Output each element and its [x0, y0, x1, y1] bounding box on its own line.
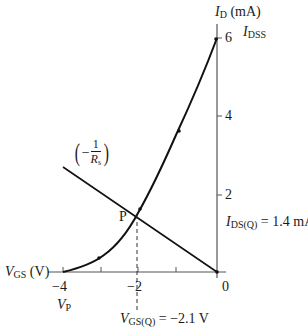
y-ticks: [217, 38, 222, 195]
x-axis-var: V: [5, 264, 14, 279]
y-tick-6: 6: [225, 31, 232, 45]
y-axis-unit: (mA): [227, 4, 261, 19]
idsq-value: = 1.4 mA: [257, 214, 308, 229]
vp-sub: P: [66, 302, 72, 313]
paren-open: (: [75, 140, 80, 166]
x-tick-m2: −2: [127, 280, 142, 294]
vgsq-label: VGS(Q) = −2.1 V: [120, 312, 209, 327]
x-axis-label: VGS (V): [5, 265, 49, 280]
slope-label: (−1Rs): [73, 138, 111, 167]
y-axis-label: ID (mA): [215, 5, 261, 20]
vp-label: VP: [57, 298, 71, 313]
slope-den-sub: s: [98, 158, 101, 167]
slope-minus: −: [82, 145, 90, 160]
y-axis-sub: D: [220, 9, 227, 20]
bias-line: [63, 167, 217, 272]
x-tick-0: 0: [222, 280, 229, 294]
idss-label: IDSS: [243, 25, 266, 40]
x-axis-sub: GS: [14, 269, 27, 280]
slope-den-var: R: [91, 152, 98, 166]
y-tick-2: 2: [225, 188, 232, 202]
slope-num: 1: [91, 138, 101, 152]
slope-fraction: 1Rs: [91, 138, 101, 167]
idss-sub: DSS: [248, 29, 266, 40]
vgsq-value: = −2.1 V: [155, 311, 209, 326]
origin-point: [215, 270, 219, 274]
vgsq-sub: GS(Q): [129, 316, 156, 327]
curve-markers: [97, 37, 218, 260]
idsq-label: IDS(Q) = 1.4 mA: [226, 215, 308, 230]
x-tick-m4: −4: [52, 280, 67, 294]
paren-close: ): [104, 140, 109, 166]
q-point-label: P: [119, 210, 127, 224]
slope-den: Rs: [91, 152, 101, 167]
idsq-sub: DS(Q): [231, 219, 258, 230]
vp-var: V: [57, 297, 66, 312]
x-axis-unit: (V): [26, 264, 49, 279]
y-tick-4: 4: [225, 109, 232, 123]
vgsq-var: V: [120, 311, 129, 326]
